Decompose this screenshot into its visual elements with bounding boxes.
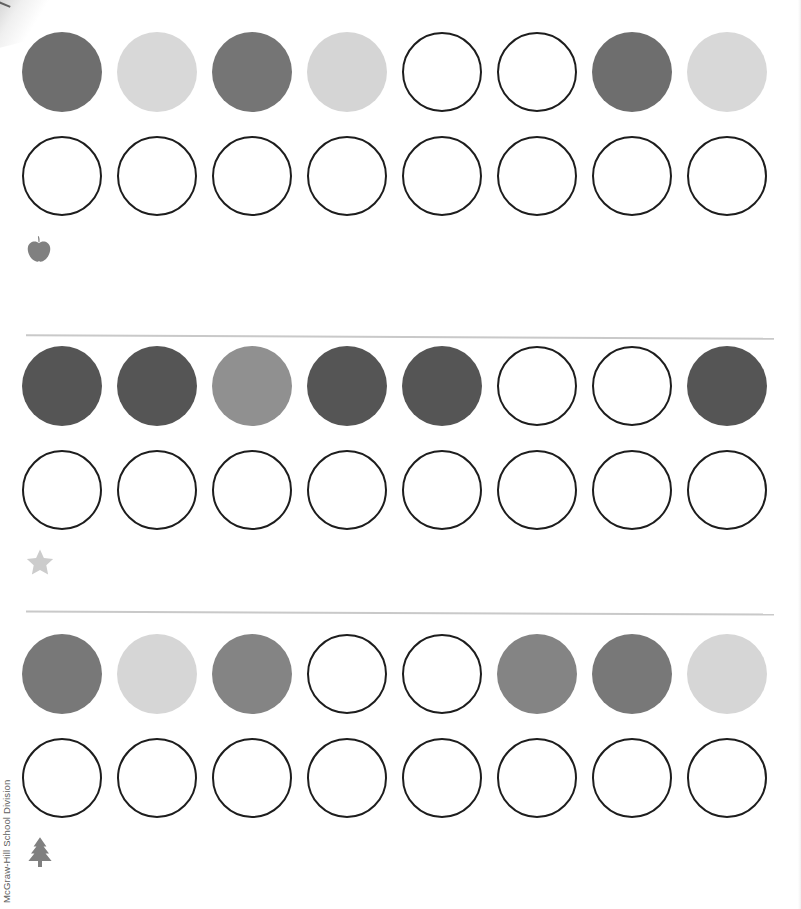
empty-circle[interactable] [497,738,577,818]
empty-circle[interactable] [592,136,672,216]
empty-circle[interactable] [212,136,292,216]
filled-circle [592,32,672,112]
filled-circle [687,346,767,426]
empty-circle [402,32,482,112]
empty-circle[interactable] [307,136,387,216]
empty-circle[interactable] [307,738,387,818]
filled-circle [117,32,197,112]
empty-circle[interactable] [687,450,767,530]
publisher-watermark: McGraw-Hill School Division [1,780,12,903]
filled-circle [687,634,767,714]
empty-circle [307,634,387,714]
empty-circle[interactable] [22,136,102,216]
filled-circle [117,634,197,714]
filled-circle [307,32,387,112]
filled-circle [212,32,292,112]
filled-circle [212,346,292,426]
empty-circle[interactable] [497,136,577,216]
empty-circle[interactable] [687,738,767,818]
exercise-1-icon-slot [26,234,801,268]
filled-circle [592,634,672,714]
exercise-1-answer-row[interactable] [22,136,792,234]
filled-circle [117,346,197,426]
empty-circle[interactable] [592,738,672,818]
separator-2 [26,611,774,616]
filled-circle [497,634,577,714]
empty-circle [592,346,672,426]
empty-circle[interactable] [22,450,102,530]
exercise-3 [0,634,801,870]
empty-circle [402,634,482,714]
exercise-1-pattern-row [22,32,792,136]
tree-icon [26,836,56,868]
star-icon [26,548,56,580]
empty-circle[interactable] [402,136,482,216]
empty-circle[interactable] [117,738,197,818]
empty-circle[interactable] [402,450,482,530]
exercise-2-pattern-row [22,346,792,450]
empty-circle[interactable] [402,738,482,818]
empty-circle[interactable] [687,136,767,216]
empty-circle[interactable] [22,738,102,818]
filled-circle [402,346,482,426]
exercise-2-answer-row[interactable] [22,450,792,548]
exercise-3-pattern-row [22,634,792,738]
empty-circle[interactable] [212,738,292,818]
empty-circle[interactable] [497,450,577,530]
empty-circle[interactable] [592,450,672,530]
empty-circle[interactable] [117,450,197,530]
exercise-1 [0,32,801,268]
filled-circle [22,32,102,112]
filled-circle [212,634,292,714]
exercise-3-answer-row[interactable] [22,738,792,836]
worksheet-page [0,0,801,909]
exercise-2-icon-slot [26,548,801,582]
apple-icon [26,234,56,266]
empty-circle [497,32,577,112]
empty-circle [497,346,577,426]
separator-1 [26,334,774,340]
exercise-2 [0,346,801,582]
empty-circle[interactable] [212,450,292,530]
empty-circle[interactable] [307,450,387,530]
filled-circle [687,32,767,112]
filled-circle [307,346,387,426]
exercise-3-icon-slot [26,836,801,870]
empty-circle[interactable] [117,136,197,216]
filled-circle [22,634,102,714]
filled-circle [22,346,102,426]
